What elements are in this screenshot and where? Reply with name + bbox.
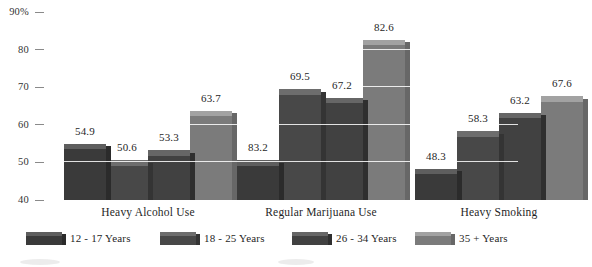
bar-front-face (363, 45, 405, 200)
bar-value-label: 67.6 (535, 78, 589, 89)
legend-swatch-top (415, 232, 451, 237)
bar-value-label: 53.3 (142, 132, 196, 143)
y-axis-tick: 60 (18, 119, 44, 131)
y-axis: 90%8070605040 (0, 12, 44, 200)
y-axis-tick: 70 (18, 81, 44, 93)
gridline (44, 86, 518, 87)
legend-swatch-front (292, 236, 328, 245)
bar[interactable] (541, 96, 583, 200)
bar-front-face (499, 118, 541, 200)
y-axis-tick: 90% (9, 6, 44, 18)
bar-side-face (457, 171, 462, 200)
bar-group (415, 12, 583, 200)
bar-value-label: 50.6 (100, 142, 154, 153)
category-label: Heavy Smoking (380, 205, 592, 219)
bar-front-face (64, 149, 106, 200)
bar[interactable] (148, 150, 190, 200)
page-artifact-right (278, 259, 314, 265)
y-axis-tick-mark (35, 162, 44, 163)
bar[interactable] (499, 113, 541, 200)
bar-side-face (279, 163, 284, 200)
bar-value-label: 48.3 (409, 151, 463, 162)
bar-front-face (190, 116, 232, 200)
y-axis-tick-mark (35, 12, 44, 13)
y-axis-tick-mark (35, 49, 44, 50)
bar[interactable] (415, 169, 457, 200)
legend-swatch-side (451, 234, 455, 245)
legend-item[interactable]: 35 + Years (415, 228, 508, 248)
gridline (44, 124, 518, 125)
bar-side-face (363, 100, 368, 200)
y-axis-tick-label: 50 (18, 156, 29, 168)
legend-swatch (160, 232, 196, 245)
bar-top-face (363, 40, 405, 46)
bar[interactable] (363, 40, 405, 200)
legend-swatch-top (292, 232, 328, 237)
bar-front-face (415, 174, 457, 200)
bar-side-face (190, 153, 195, 201)
legend-swatch-side (62, 234, 66, 245)
bar-top-face (499, 113, 541, 119)
bar-value-label: 82.6 (357, 22, 411, 33)
bar-top-face (415, 169, 457, 175)
bar-group (237, 12, 405, 200)
bar-value-label: 58.3 (451, 113, 505, 124)
legend-swatch-front (415, 236, 451, 245)
bar-front-face (237, 165, 279, 200)
bar-side-face (148, 163, 153, 200)
bar[interactable] (457, 131, 499, 200)
legend-swatch (415, 232, 451, 245)
bar-top-face (457, 131, 499, 137)
bar-side-face (405, 42, 410, 200)
bar-front-face (106, 165, 148, 200)
y-axis-tick-mark (35, 124, 44, 125)
chart-legend: 12 - 17 Years18 - 25 Years26 - 34 Years3… (0, 228, 518, 250)
bar-side-face (106, 146, 111, 200)
bar-side-face (321, 92, 326, 200)
y-axis-tick-label: 60 (18, 119, 29, 131)
legend-item[interactable]: 12 - 17 Years (26, 228, 131, 248)
bar[interactable] (237, 160, 279, 200)
legend-swatch-side (328, 234, 332, 245)
y-axis-tick-label: 90% (9, 6, 29, 18)
bar-side-face (499, 134, 504, 200)
y-axis-tick-mark (35, 87, 44, 88)
y-axis-tick-label: 80 (18, 44, 29, 56)
bar-group (64, 12, 232, 200)
legend-swatch-side (196, 234, 200, 245)
bar-top-face (541, 96, 583, 102)
legend-swatch-front (26, 236, 62, 245)
bar-value-label: 83.2 (231, 142, 285, 153)
gridline (44, 11, 518, 12)
bar[interactable] (321, 98, 363, 200)
gridline (44, 49, 518, 50)
bar[interactable] (106, 160, 148, 200)
bar-value-label: 54.9 (58, 126, 112, 137)
legend-swatch-top (160, 232, 196, 237)
legend-swatch-front (160, 236, 196, 245)
bar-front-face (541, 101, 583, 200)
y-axis-tick-mark (35, 200, 44, 201)
legend-label: 35 + Years (459, 232, 508, 245)
bar-front-face (457, 136, 499, 200)
bar-value-label: 63.7 (184, 93, 238, 104)
y-axis-tick: 80 (18, 44, 44, 56)
bar-front-face (321, 103, 363, 200)
bar-value-label: 67.2 (315, 80, 369, 91)
legend-swatch (26, 232, 62, 245)
bar-top-face (148, 150, 190, 156)
legend-item[interactable]: 18 - 25 Years (160, 228, 265, 248)
bar-value-label: 63.2 (493, 95, 547, 106)
y-axis-tick: 50 (18, 156, 44, 168)
legend-item[interactable]: 26 - 34 Years (292, 228, 397, 248)
bar-top-face (321, 98, 363, 104)
legend-label: 26 - 34 Years (336, 232, 397, 245)
bar-side-face (583, 99, 588, 200)
legend-label: 12 - 17 Years (70, 232, 131, 245)
bar[interactable] (279, 89, 321, 200)
bar-side-face (541, 115, 546, 200)
bar-top-face (190, 111, 232, 117)
page-artifact-left (20, 259, 60, 265)
plot-area: 54.950.653.363.783.269.567.282.648.358.3… (44, 12, 518, 200)
